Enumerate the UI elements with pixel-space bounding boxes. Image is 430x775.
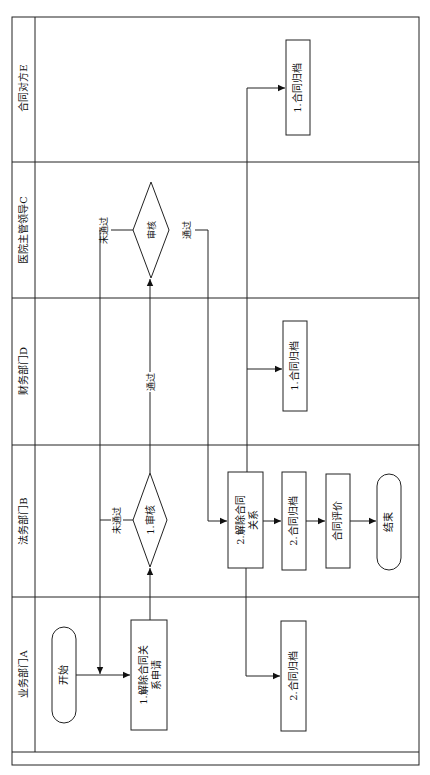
- edge-label-c-fail: 未通过: [98, 217, 109, 244]
- node-end[interactable]: 结束: [377, 474, 401, 570]
- node-label: 结束: [382, 512, 394, 532]
- node-label: 2.合同归档: [287, 651, 299, 701]
- node-evaluate[interactable]: 合同评价: [326, 474, 350, 568]
- node-label-line1: 1.解除合同关: [137, 645, 149, 705]
- node-label-line1: 2.解除合同: [234, 495, 246, 545]
- swimlane-diagram: 合同对方E 医院主管领导C 财务部门D 法务部门B 业务部门A: [0, 0, 430, 775]
- connectors: [76, 88, 376, 676]
- edge-label-c-pass: 通过: [181, 221, 192, 239]
- lane-headers: 合同对方E 医院主管领导C 财务部门D 法务部门B 业务部门A: [17, 64, 29, 697]
- node-label: 2.合同归档: [287, 496, 299, 546]
- node-archive-d[interactable]: 1.合同归档: [283, 321, 307, 411]
- node-label: 审核: [146, 221, 157, 239]
- lane-label-c: 医院主管领导C: [17, 196, 29, 264]
- edge-label-b-fail: 未通过: [111, 507, 122, 534]
- node-label: 合同评价: [331, 501, 343, 541]
- node-review-c[interactable]: 审核: [133, 182, 169, 278]
- node-label-line2: 系申请: [150, 660, 162, 690]
- node-archive-b[interactable]: 2.合同归档: [282, 472, 306, 570]
- node-archive-e[interactable]: 1.合同归档: [286, 40, 310, 135]
- lane-label-a: 业务部门A: [17, 650, 29, 698]
- node-label: 1.审核: [144, 505, 156, 535]
- node-apply[interactable]: 1.解除合同关 系申请: [131, 620, 167, 730]
- lane-label-e: 合同对方E: [17, 64, 29, 111]
- lane-label-b: 法务部门B: [17, 497, 29, 544]
- edge-label-b-pass: 通过: [145, 373, 156, 391]
- node-start[interactable]: 开始: [52, 627, 76, 723]
- lane-label-d: 财务部门D: [17, 347, 29, 395]
- node-label: 1.合同归档: [288, 341, 300, 391]
- node-terminate-contract[interactable]: 2.解除合同 关系: [228, 472, 263, 568]
- node-label-line2: 关系: [247, 510, 259, 530]
- node-archive-a[interactable]: 2.合同归档: [281, 621, 306, 731]
- node-review-b[interactable]: 1.审核: [133, 473, 167, 567]
- node-label: 开始: [57, 665, 69, 685]
- node-label: 1.合同归档: [291, 63, 303, 113]
